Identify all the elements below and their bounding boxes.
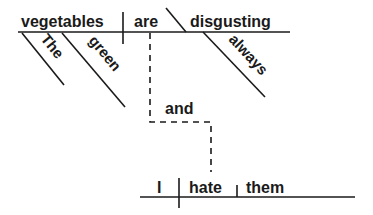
conjunction-word: and bbox=[165, 100, 193, 117]
verb-word-2: hate bbox=[189, 179, 222, 196]
subject-word: vegetables bbox=[21, 13, 104, 30]
sentence-diagram: vegetables are disgusting The green alwa… bbox=[0, 0, 373, 215]
predicate-adjective-divider bbox=[166, 8, 186, 32]
verb-word: are bbox=[134, 13, 158, 30]
object-word: them bbox=[246, 179, 284, 196]
predicate-adjective-word: disgusting bbox=[190, 13, 271, 30]
subject-word-2: I bbox=[157, 179, 161, 196]
modifier-always: always bbox=[226, 30, 272, 78]
